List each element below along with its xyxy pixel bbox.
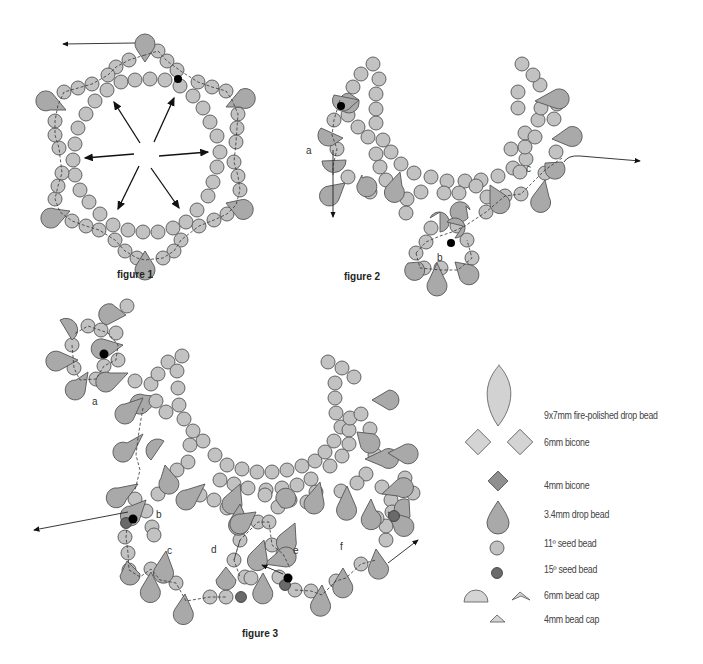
inner-ring	[66, 72, 227, 239]
fig3-point-d: d	[211, 544, 217, 555]
circle-icon	[490, 541, 504, 555]
legend-icons	[464, 365, 533, 622]
fig3-point-f: f	[340, 541, 343, 552]
direction-arrows	[85, 98, 208, 209]
exit-arrow-b	[34, 512, 128, 530]
legend-label-drop-3-4mm: 3.4mm drop bead	[544, 509, 609, 520]
figure-3	[34, 299, 420, 625]
legend-label-seed-15: 15º seed bead	[544, 564, 597, 575]
drop-icon	[487, 501, 509, 534]
diamond-icon-2	[507, 429, 532, 454]
circle-small-dark-icon	[492, 568, 503, 579]
legend-label-cap-6mm: 6mm bead cap	[544, 590, 599, 601]
figure-2-label: figure 2	[344, 271, 380, 282]
knot-marker-e	[284, 574, 293, 583]
figure-1-label: figure 1	[117, 269, 153, 280]
knot-marker-b	[447, 239, 455, 247]
figure-2	[318, 57, 640, 296]
beading-diagram	[0, 0, 703, 664]
knot-marker	[174, 75, 182, 83]
exit-arrow	[63, 43, 135, 44]
bead-cap-profile-icon	[512, 592, 530, 600]
diamond-small-dark-icon	[488, 471, 508, 491]
fig2-point-b: b	[437, 252, 443, 263]
fig2-point-a: a	[306, 145, 312, 156]
exit-arrow-c	[564, 156, 640, 162]
knot-marker-b	[129, 515, 138, 524]
legend-label-cap-4mm: 4mm bead cap	[544, 614, 599, 625]
legend-label-drop-9x7: 9x7mm fire-polished drop bead	[544, 410, 658, 421]
teardrop-large-icon	[487, 365, 511, 426]
legend-label-bicone-4mm: 4mm bicone	[544, 480, 589, 491]
diamond-icon	[465, 429, 490, 454]
bead-cap-small-icon	[490, 615, 505, 622]
legend-label-seed-11: 11º seed bead	[544, 538, 596, 549]
bead-cap-icon	[464, 590, 488, 602]
fig3-point-c: c	[167, 545, 172, 556]
fig3-point-e: e	[293, 545, 299, 556]
legend-label-bicone-6mm: 6mm bicone	[544, 437, 589, 448]
fig3-point-b: b	[156, 509, 162, 520]
cluster-a	[46, 299, 162, 414]
fig3-point-a: a	[92, 396, 98, 407]
figure-1	[36, 34, 255, 280]
figure-3-label: figure 3	[242, 628, 278, 639]
knot-marker-a	[337, 102, 345, 110]
fig2-point-c: c	[526, 163, 531, 174]
